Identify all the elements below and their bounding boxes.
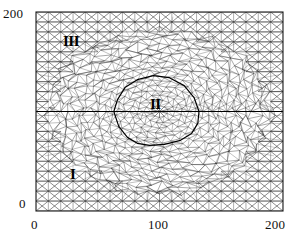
x-axis-tick-label-200: 200 (265, 217, 285, 233)
mesh-figure: 200 0 0 100 200 III II I (0, 0, 299, 246)
y-axis-tick-label-bottom: 0 (19, 196, 26, 212)
y-axis-tick-label-top: 200 (3, 6, 23, 22)
region-label-II: II (150, 96, 161, 113)
x-axis-tick-label-0: 0 (31, 217, 38, 233)
x-axis-tick-label-100: 100 (148, 217, 168, 233)
region-label-III: III (63, 33, 79, 50)
region-label-I: I (70, 166, 76, 183)
mesh-canvas (0, 0, 299, 246)
